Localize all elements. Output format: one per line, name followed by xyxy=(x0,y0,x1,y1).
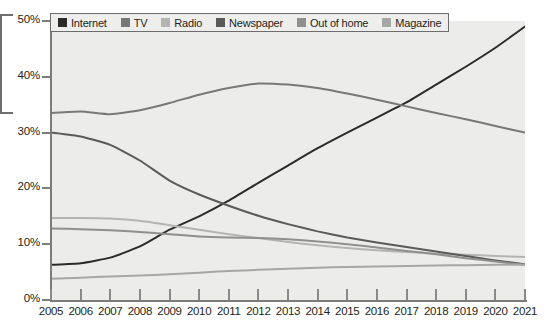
legend-swatch-icon xyxy=(297,18,306,27)
legend-item-tv[interactable]: TV xyxy=(121,17,148,29)
x-tick-label: 2015 xyxy=(335,305,359,317)
legend-item-magazine[interactable]: Magazine xyxy=(382,17,441,29)
legend-item-label: Newspaper xyxy=(229,17,283,29)
x-tick-mark xyxy=(139,289,141,300)
legend-item-label: Magazine xyxy=(395,17,441,29)
legend-swatch-icon xyxy=(121,18,130,27)
x-tick-mark xyxy=(228,289,230,300)
legend-swatch-icon xyxy=(58,18,67,27)
x-tick-mark xyxy=(198,289,200,300)
x-tick-label: 2016 xyxy=(365,305,389,317)
y-tick-label: 20% xyxy=(2,180,40,192)
legend-item-label: Internet xyxy=(71,17,107,29)
legend-item-label: Radio xyxy=(174,17,202,29)
x-tick-label: 2020 xyxy=(483,305,507,317)
legend-swatch-icon xyxy=(382,18,391,27)
y-tick-mark xyxy=(42,20,50,22)
x-tick-mark xyxy=(494,289,496,300)
y-tick-mark xyxy=(42,243,50,245)
chart-legend: InternetTVRadioNewspaperOut of homeMagaz… xyxy=(50,13,449,32)
x-tick-mark xyxy=(465,289,467,300)
series-line-tv xyxy=(51,83,525,132)
legend-swatch-icon xyxy=(161,18,170,27)
series-line-internet xyxy=(51,27,525,265)
x-tick-label: 2013 xyxy=(276,305,300,317)
y-tick-mark xyxy=(42,132,50,134)
series-line-newspaper xyxy=(51,133,525,265)
chart-page: 0%10%20%30%40%50% InternetTVRadioNewspap… xyxy=(0,0,550,328)
x-tick-label: 2014 xyxy=(305,305,329,317)
y-tick-label: 40% xyxy=(2,69,40,81)
series-line-out-of-home xyxy=(51,229,525,265)
x-tick-mark xyxy=(169,289,171,300)
x-tick-mark xyxy=(406,289,408,300)
x-tick-label: 2021 xyxy=(513,305,537,317)
x-tick-mark xyxy=(257,289,259,300)
legend-item-newspaper[interactable]: Newspaper xyxy=(216,17,283,29)
legend-item-internet[interactable]: Internet xyxy=(58,17,107,29)
x-tick-label: 2005 xyxy=(39,305,63,317)
x-tick-mark xyxy=(435,289,437,300)
y-tick-label: 0% xyxy=(2,292,40,304)
x-tick-label: 2018 xyxy=(424,305,448,317)
x-tick-label: 2011 xyxy=(217,305,241,317)
x-tick-label: 2012 xyxy=(246,305,270,317)
y-tick-mark xyxy=(42,187,50,189)
x-tick-label: 2010 xyxy=(187,305,211,317)
x-tick-mark xyxy=(287,289,289,300)
x-tick-mark xyxy=(524,289,526,300)
y-axis: 0%10%20%30%40%50% xyxy=(0,0,40,328)
x-tick-label: 2006 xyxy=(68,305,92,317)
x-axis-line xyxy=(50,300,527,302)
plot-area xyxy=(51,21,525,300)
x-tick-mark xyxy=(80,289,82,300)
x-tick-label: 2008 xyxy=(128,305,152,317)
x-tick-label: 2007 xyxy=(98,305,122,317)
x-tick-mark xyxy=(50,289,52,300)
legend-item-label: Out of home xyxy=(310,17,368,29)
series-line-magazine xyxy=(51,265,525,279)
y-tick-label: 50% xyxy=(2,13,40,25)
y-tick-label: 10% xyxy=(2,236,40,248)
x-tick-mark xyxy=(109,289,111,300)
y-tick-mark xyxy=(42,76,50,78)
x-tick-mark xyxy=(317,289,319,300)
x-tick-mark xyxy=(376,289,378,300)
x-tick-label: 2019 xyxy=(454,305,478,317)
x-tick-mark xyxy=(346,289,348,300)
y-axis-line xyxy=(50,19,52,302)
legend-swatch-icon xyxy=(216,18,225,27)
legend-item-radio[interactable]: Radio xyxy=(161,17,202,29)
y-tick-mark xyxy=(42,299,50,301)
series-lines xyxy=(51,21,525,300)
y-tick-label: 30% xyxy=(2,125,40,137)
legend-item-label: TV xyxy=(134,17,148,29)
legend-item-out-of-home[interactable]: Out of home xyxy=(297,17,368,29)
x-tick-label: 2009 xyxy=(157,305,181,317)
x-tick-label: 2017 xyxy=(394,305,418,317)
